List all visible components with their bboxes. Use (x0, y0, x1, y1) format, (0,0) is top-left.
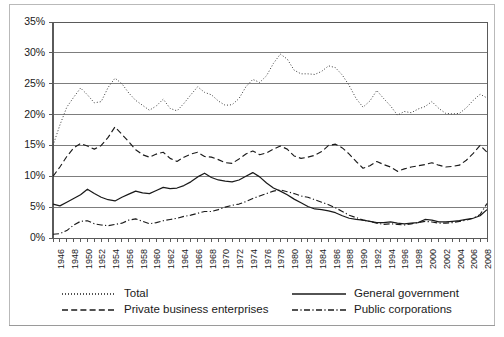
x-axis-tick-label: 2000 (429, 249, 438, 269)
x-axis-tick-label: 1962 (167, 249, 176, 269)
legend-swatch-dashdot (290, 304, 348, 316)
x-axis-tick-label: 2006 (470, 249, 479, 269)
x-axis-tick-label: 1988 (346, 249, 355, 269)
legend-swatch-dashed (60, 304, 118, 316)
x-axis-tick-label: 2008 (484, 249, 493, 269)
y-axis-tick-label: 25% (11, 78, 45, 89)
y-axis-tick-label: 30% (11, 47, 45, 58)
y-axis-tick-label: 5% (11, 201, 45, 212)
x-axis-tick-label: 1946 (57, 249, 66, 269)
series-line-private-business-enterprises (53, 127, 487, 176)
legend-label: General government (354, 288, 459, 300)
legend-swatch-dotted (60, 288, 118, 300)
series-line-public-corporations (53, 190, 487, 234)
x-axis-tick-label: 1996 (401, 249, 410, 269)
legend-item: Public corporations (290, 302, 452, 317)
x-axis-tick-label: 1986 (333, 249, 342, 269)
legend-label: Private business enterprises (124, 304, 268, 316)
x-axis-tick-label: 1984 (319, 249, 328, 269)
x-axis-tick-label: 1978 (277, 249, 286, 269)
x-axis-tick-label: 1954 (112, 249, 121, 269)
y-axis-tick-label: 15% (11, 139, 45, 150)
x-axis-tick-label: 1952 (98, 249, 107, 269)
x-axis-tick-label: 2002 (443, 249, 452, 269)
legend-label: Public corporations (354, 304, 452, 316)
series-line-total (53, 54, 487, 145)
legend-item: General government (290, 286, 459, 301)
legend-swatch-solid (290, 288, 348, 300)
x-axis-tick-label: 1956 (126, 249, 135, 269)
x-axis-tick-label: 1974 (250, 249, 259, 269)
x-axis-tick-label: 1970 (222, 249, 231, 269)
x-axis-tick-label: 1968 (209, 249, 218, 269)
y-axis-tick-label: 10% (11, 170, 45, 181)
x-axis-tick-label: 1966 (195, 249, 204, 269)
x-axis-tick-label: 1976 (264, 249, 273, 269)
x-axis-ticks (49, 22, 487, 242)
chart-figure: 0%5%10%15%20%25%30%35% 19461948195019521… (0, 0, 504, 337)
x-axis-tick-label: 1972 (236, 249, 245, 269)
x-axis-tick-label: 1950 (85, 249, 94, 269)
y-axis-tick-label: 0% (11, 232, 45, 243)
x-axis-tick-label: 1994 (388, 249, 397, 269)
x-axis-tick-label: 1982 (305, 249, 314, 269)
x-axis-tick-label: 1990 (360, 249, 369, 269)
x-axis-tick-label: 1964 (181, 249, 190, 269)
series-line-general-government (53, 173, 487, 224)
legend-label: Total (124, 288, 148, 300)
x-axis-tick-label: 1960 (153, 249, 162, 269)
legend-item: Total (60, 286, 148, 301)
chart-legend: TotalGeneral governmentPrivate business … (60, 286, 460, 320)
x-axis-tick-label: 1980 (291, 249, 300, 269)
x-axis-tick-label: 1958 (140, 249, 149, 269)
legend-item: Private business enterprises (60, 302, 268, 317)
y-axis-tick-label: 20% (11, 109, 45, 120)
y-axis-tick-label: 35% (11, 16, 45, 27)
x-axis-tick-label: 2004 (457, 249, 466, 269)
x-axis-tick-label: 1992 (374, 249, 383, 269)
x-axis-tick-label: 1948 (71, 249, 80, 269)
legend-separator (9, 325, 495, 326)
x-axis-tick-label: 1998 (415, 249, 424, 269)
